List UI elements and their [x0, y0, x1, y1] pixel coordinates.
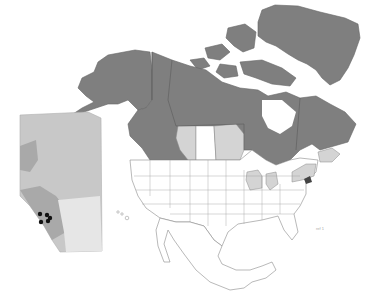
region-saskatchewan	[196, 126, 216, 160]
alberta-inset	[20, 112, 102, 252]
north-america-map	[0, 0, 371, 297]
region-manitoba	[214, 124, 244, 160]
region-alaska	[70, 50, 152, 116]
region-maritimes	[318, 148, 340, 162]
region-hawaii	[117, 211, 129, 220]
scale-label: ref 1	[316, 226, 324, 231]
